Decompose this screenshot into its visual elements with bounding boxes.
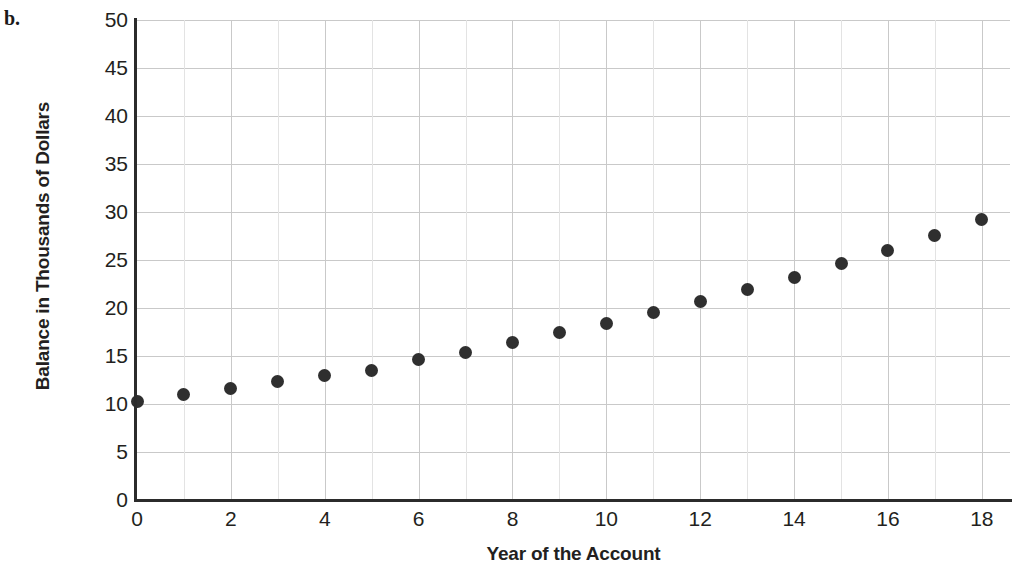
gridline-vertical xyxy=(419,20,420,500)
y-tick-label: 35 xyxy=(88,153,128,174)
y-tick-label: 40 xyxy=(88,105,128,126)
gridline-horizontal xyxy=(137,68,1010,69)
y-tick-label: 0 xyxy=(88,489,128,510)
gridline-horizontal xyxy=(137,164,1010,165)
gridline-vertical xyxy=(231,20,232,500)
data-point xyxy=(224,382,237,395)
gridline-vertical xyxy=(935,20,936,500)
gridline-vertical xyxy=(700,20,701,500)
data-point xyxy=(365,364,378,377)
data-point xyxy=(835,257,848,270)
gridline-horizontal xyxy=(137,308,1010,309)
gridline-vertical xyxy=(372,20,373,500)
y-axis-title: Balance in Thousands of Dollars xyxy=(32,81,54,411)
y-tick-label: 10 xyxy=(88,393,128,414)
data-point xyxy=(412,353,425,366)
x-tick-label: 14 xyxy=(769,508,819,529)
gridline-horizontal xyxy=(137,356,1010,357)
gridline-horizontal xyxy=(137,116,1010,117)
gridline-vertical xyxy=(888,20,889,500)
x-tick-label: 10 xyxy=(581,508,631,529)
gridline-vertical xyxy=(653,20,654,500)
gridline-vertical xyxy=(747,20,748,500)
data-point xyxy=(741,283,754,296)
data-point xyxy=(459,346,472,359)
y-tick-label: 20 xyxy=(88,297,128,318)
gridline-vertical xyxy=(512,20,513,500)
data-point xyxy=(694,295,707,308)
gridline-horizontal xyxy=(137,20,1010,21)
gridline-vertical xyxy=(325,20,326,500)
data-point xyxy=(881,244,894,257)
gridline-vertical xyxy=(278,20,279,500)
y-tick-label: 25 xyxy=(88,249,128,270)
plot-area xyxy=(137,20,1010,500)
gridline-vertical xyxy=(982,20,983,500)
gridline-vertical xyxy=(606,20,607,500)
data-point xyxy=(647,306,660,319)
data-point xyxy=(788,271,801,284)
x-tick-label: 18 xyxy=(957,508,1007,529)
y-tick-label: 30 xyxy=(88,201,128,222)
x-axis-line xyxy=(134,499,1012,502)
x-tick-label: 16 xyxy=(863,508,913,529)
data-point xyxy=(600,317,613,330)
gridline-vertical xyxy=(559,20,560,500)
data-point xyxy=(271,375,284,388)
part-label: b. xyxy=(4,8,20,28)
gridline-horizontal xyxy=(137,260,1010,261)
gridline-vertical xyxy=(184,20,185,500)
y-tick-label: 5 xyxy=(88,441,128,462)
gridline-vertical xyxy=(794,20,795,500)
x-tick-label: 2 xyxy=(206,508,256,529)
data-point xyxy=(318,369,331,382)
gridline-vertical xyxy=(466,20,467,500)
data-point xyxy=(975,213,988,226)
data-point xyxy=(177,388,190,401)
x-axis-title: Year of the Account xyxy=(137,543,1010,565)
x-tick-label: 12 xyxy=(675,508,725,529)
x-tick-label: 4 xyxy=(300,508,350,529)
gridline-horizontal xyxy=(137,404,1010,405)
y-tick-label: 15 xyxy=(88,345,128,366)
data-point xyxy=(553,326,566,339)
x-axis-tick-labels: 024681012141618 xyxy=(137,508,1010,538)
gridline-horizontal xyxy=(137,212,1010,213)
y-tick-label: 50 xyxy=(88,9,128,30)
data-point xyxy=(928,229,941,242)
data-point xyxy=(131,395,144,408)
x-tick-label: 6 xyxy=(394,508,444,529)
data-point xyxy=(506,336,519,349)
x-tick-label: 0 xyxy=(112,508,162,529)
x-tick-label: 8 xyxy=(487,508,537,529)
figure-panel-b: b. Balance in Thousands of Dollars Year … xyxy=(0,0,1024,576)
gridline-horizontal xyxy=(137,452,1010,453)
y-axis-line xyxy=(134,18,137,502)
y-tick-label: 45 xyxy=(88,57,128,78)
y-axis-tick-labels: 05101520253035404550 xyxy=(84,0,128,576)
